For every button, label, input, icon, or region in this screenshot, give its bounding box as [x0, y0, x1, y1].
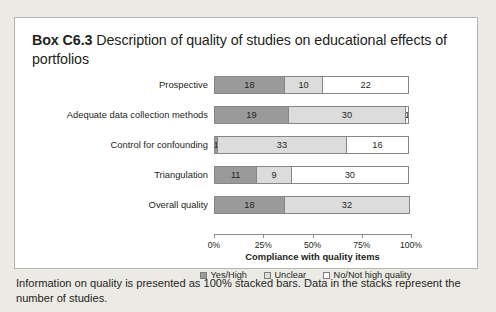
axis-tick — [263, 234, 264, 238]
page-title: Box C6.3 Description of quality of studi… — [32, 31, 452, 68]
figure-caption: Information on quality is presented as 1… — [16, 276, 468, 306]
bar-track: 13316 — [214, 136, 411, 154]
axis-tick-label: 50% — [293, 240, 333, 250]
bar-segment: 22 — [322, 76, 409, 94]
bar-segment: 16 — [346, 136, 409, 154]
box-container: Box C6.3 Description of quality of studi… — [14, 17, 478, 269]
bar-track: 1832 — [214, 196, 411, 214]
box-title-text: Description of quality of studies on edu… — [32, 32, 447, 67]
bar-row: Adequate data collection methods19301 — [15, 106, 479, 124]
bar-track: 181022 — [214, 76, 411, 94]
bar-category-label: Adequate data collection methods — [15, 106, 208, 124]
bar-segment: 18 — [214, 196, 285, 214]
bar-segment: 1 — [405, 106, 409, 124]
axis-tick — [313, 234, 314, 238]
bar-segment: 30 — [288, 106, 406, 124]
axis-tick-label: 75% — [342, 240, 382, 250]
bar-category-label: Triangulation — [15, 166, 208, 184]
box-label: Box C6.3 — [32, 32, 92, 48]
bar-segment: 9 — [256, 166, 291, 184]
bar-segment: 10 — [284, 76, 323, 94]
bar-segment: 11 — [214, 166, 257, 184]
bar-row: Prospective181022 — [15, 76, 479, 94]
bar-segment: 19 — [214, 106, 289, 124]
axis-tick-label: 100% — [391, 240, 431, 250]
x-axis-title: Compliance with quality items — [214, 251, 411, 262]
axis-tick — [362, 234, 363, 238]
bar-category-label: Prospective — [15, 76, 208, 94]
bar-segment: 32 — [284, 196, 410, 214]
bar-segment: 30 — [291, 166, 409, 184]
bar-track: 19301 — [214, 106, 411, 124]
x-axis: 0%25%50%75%100% — [214, 234, 411, 235]
bar-segment: 33 — [217, 136, 347, 154]
axis-tick-label: 25% — [243, 240, 283, 250]
bar-segment: 18 — [214, 76, 285, 94]
axis-tick — [214, 234, 215, 238]
bar-row: Control for confounding13316 — [15, 136, 479, 154]
bar-track: 11930 — [214, 166, 411, 184]
bar-row: Triangulation11930 — [15, 166, 479, 184]
bar-row: Overall quality1832 — [15, 196, 479, 214]
bar-category-label: Control for confounding — [15, 136, 208, 154]
stacked-bar-chart: Overall quality1832Triangulation11930Con… — [15, 74, 479, 270]
bar-category-label: Overall quality — [15, 196, 208, 214]
axis-tick-label: 0% — [194, 240, 234, 250]
axis-tick — [411, 234, 412, 238]
